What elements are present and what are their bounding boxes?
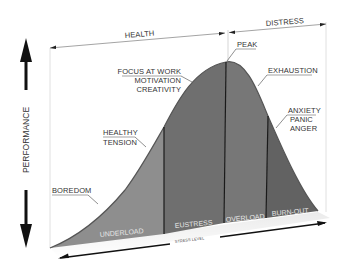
region-overload [224,62,268,223]
annotation-exhaustion-text: EXHAUSTION [268,66,318,75]
annotation-healthy-tension: HEALTHY TENSION [103,128,146,147]
annotation-anger-text: ANGER [290,124,318,133]
health-zone-label: HEALTH [124,29,154,40]
annotation-exhaustion: EXHAUSTION [258,66,318,86]
annotation-anxiety: ANXIETY PANIC ANGER [276,106,321,133]
y-axis-label: PERFORMANCE [21,107,31,173]
annotation-tension-text: TENSION [103,138,137,147]
annotation-peak-text: PEAK [237,40,257,49]
annotation-creativity-text: CREATIVITY [136,85,181,94]
stress-performance-diagram: PERFORMANCE HEALTH DISTRESS UNDERLOAD EU… [0,0,345,276]
annotation-panic-text: PANIC [290,115,313,124]
annotation-focus: FOCUS AT WORK MOTIVATION CREATIVITY [117,67,192,94]
annotation-boredom: BOREDOM [52,186,98,204]
annotation-boredom-text: BOREDOM [52,186,91,195]
annotation-focus-text: FOCUS AT WORK [117,67,181,76]
annotation-healthy-text: HEALTHY [103,128,138,137]
annotation-anxiety-text: ANXIETY [288,106,321,115]
annotation-motivation-text: MOTIVATION [134,76,181,85]
annotation-peak: PEAK [227,40,257,61]
